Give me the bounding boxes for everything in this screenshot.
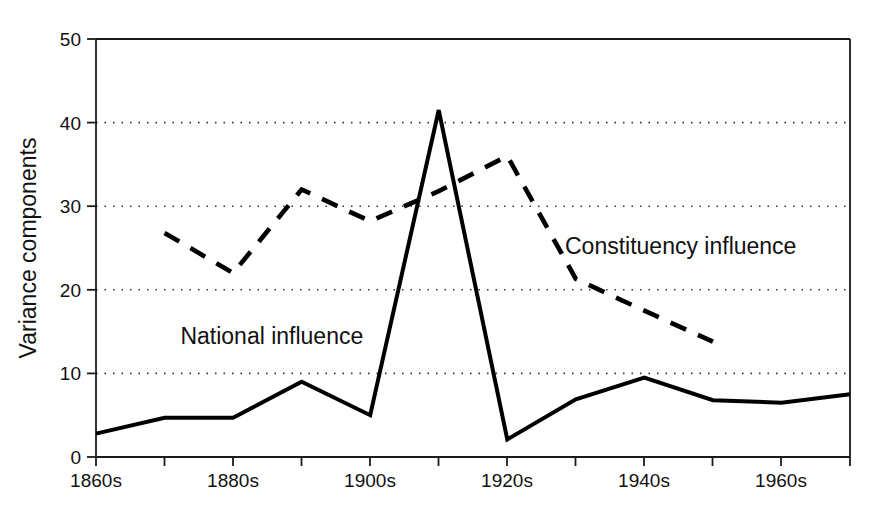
x-tick-label-1960s: 1960s bbox=[755, 470, 807, 491]
x-tick-label-1900s: 1900s bbox=[344, 470, 396, 491]
y-tick-labels: 50 40 30 20 10 0 bbox=[60, 29, 81, 468]
x-tick-labels: 1860s 1880s 1900s 1920s 1940s 1960s bbox=[70, 470, 807, 491]
chart-figure: 50 40 30 20 10 0 Variance components 1 bbox=[0, 0, 884, 513]
x-tick-label-1920s: 1920s bbox=[481, 470, 533, 491]
y-axis-title: Variance components bbox=[15, 138, 41, 359]
y-tick-label-50: 50 bbox=[60, 29, 81, 50]
x-tick-label-1880s: 1880s bbox=[207, 470, 259, 491]
y-tick-label-0: 0 bbox=[70, 447, 81, 468]
annotation-national-influence: National influence bbox=[180, 323, 363, 349]
x-tick-label-1940s: 1940s bbox=[618, 470, 670, 491]
y-tick-label-10: 10 bbox=[60, 363, 81, 384]
annotation-constituency-influence: Constituency influence bbox=[565, 233, 796, 259]
y-tick-label-40: 40 bbox=[60, 113, 81, 134]
y-tick-label-30: 30 bbox=[60, 196, 81, 217]
y-tick-label-20: 20 bbox=[60, 280, 81, 301]
line-chart: 50 40 30 20 10 0 Variance components 1 bbox=[0, 0, 884, 513]
x-tick-label-1860s: 1860s bbox=[70, 470, 122, 491]
y-axis-ticks bbox=[87, 39, 96, 457]
x-axis-ticks bbox=[96, 457, 850, 466]
